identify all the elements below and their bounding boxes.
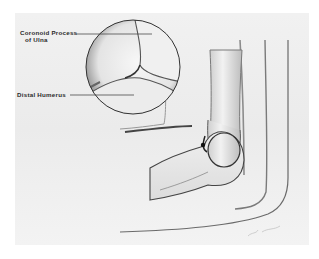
artist-signature <box>248 226 280 236</box>
forearm-bones <box>150 132 244 200</box>
label-distal-humerus: Distal Humerus <box>17 91 66 98</box>
label-coronoid-line1: Coronoid Process <box>20 29 77 36</box>
label-coronoid-process: Coronoid Process of Ulna <box>20 29 77 43</box>
magnified-inset <box>80 20 185 120</box>
forearm-upper-edge <box>125 126 192 132</box>
label-coronoid-line2: of Ulna <box>20 36 77 43</box>
marker-dot <box>201 143 205 147</box>
